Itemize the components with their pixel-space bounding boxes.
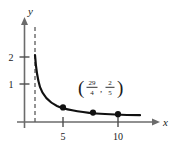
data-point-2 bbox=[90, 110, 96, 116]
x-axis bbox=[17, 118, 160, 125]
x-tick-label-5: 5 bbox=[61, 131, 66, 142]
y-axis-label: y bbox=[27, 5, 33, 17]
coordinate-plot: y x 1 2 5 10 ( 2 bbox=[0, 0, 179, 151]
fraction-numerator-2: 2 bbox=[108, 79, 112, 87]
coordinate-annotation: ( 29 4 , 2 5 ) bbox=[78, 77, 123, 99]
y-tick-2: 2 bbox=[9, 52, 30, 63]
fraction-numerator-29: 29 bbox=[89, 79, 97, 87]
fraction-2-over-5: 2 5 bbox=[106, 79, 115, 97]
annotation-comma: , bbox=[100, 84, 102, 94]
data-point-3 bbox=[115, 111, 121, 117]
x-axis-label: x bbox=[162, 116, 168, 128]
y-tick-label-1: 1 bbox=[9, 79, 14, 90]
y-tick-1: 1 bbox=[9, 79, 30, 90]
graph-figure: y x 1 2 5 10 ( 2 bbox=[0, 0, 179, 151]
y-tick-label-2: 2 bbox=[9, 52, 14, 63]
x-tick-5: 5 bbox=[61, 117, 66, 142]
fraction-29-over-4: 29 4 bbox=[87, 79, 98, 97]
x-tick-10: 10 bbox=[113, 117, 123, 142]
data-point-1 bbox=[60, 104, 66, 110]
fraction-denominator-4: 4 bbox=[90, 89, 94, 97]
fraction-denominator-5: 5 bbox=[108, 89, 112, 97]
function-curve bbox=[35, 55, 140, 115]
annotation-close-paren: ) bbox=[117, 77, 123, 99]
x-tick-label-10: 10 bbox=[113, 131, 123, 142]
y-axis bbox=[21, 17, 28, 128]
annotation-open-paren: ( bbox=[78, 77, 84, 99]
